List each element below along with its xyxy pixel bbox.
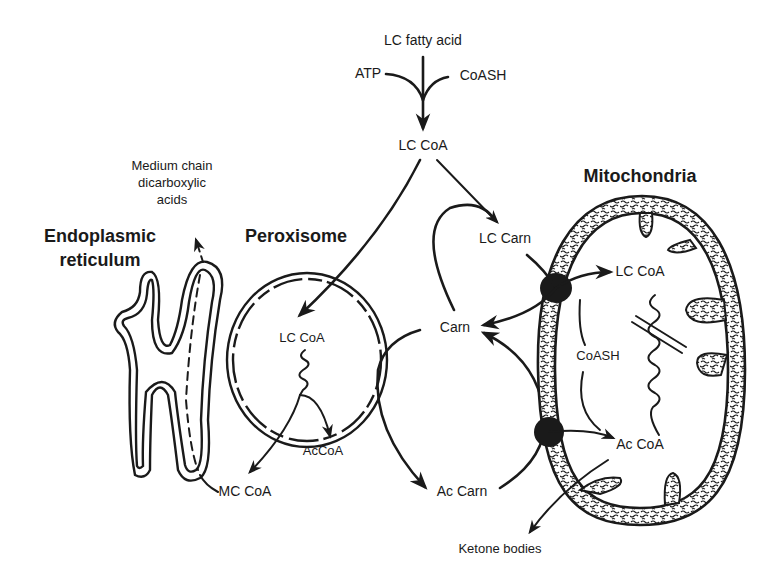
lc-coa-peroxisome-label: LC CoA (279, 330, 325, 345)
lc-coa-cytosol-label: LC CoA (398, 137, 448, 153)
coash-mito-line (580, 300, 585, 345)
ketone-bodies-label: Ketone bodies (458, 541, 542, 556)
mito-block-marks (632, 316, 686, 353)
er-title-line1: Endoplasmic (44, 226, 156, 246)
mitochondria-shape (534, 196, 745, 525)
peroxisome-shape (227, 273, 387, 447)
coash-curve (581, 372, 600, 430)
er-title-line2: reticulum (59, 250, 140, 270)
mcda-label-line1: Medium chain (132, 158, 213, 173)
mitochondria-title: Mitochondria (584, 166, 698, 186)
coash-mito-label: CoASH (576, 348, 619, 363)
er-shape (115, 262, 222, 481)
mito-beta-oxidation-spiral (648, 295, 659, 435)
coash-top-label: CoASH (460, 67, 507, 83)
carn-to-ac-carn-arrow (377, 330, 425, 487)
mcda-label-line3: acids (157, 192, 188, 207)
peroxisome-title: Peroxisome (245, 226, 347, 246)
lc-carn-label: LC Carn (479, 230, 531, 246)
peroxisome-to-accoa-arrow (300, 395, 330, 436)
mcda-label-line2: dicarboxylic (138, 175, 206, 190)
mc-coa-label: MC CoA (219, 483, 273, 499)
coash-input-curve (423, 77, 448, 100)
lc-coa-mito-label: LC CoA (615, 263, 665, 279)
ac-carn-label: Ac Carn (437, 483, 488, 499)
peroxisome-spiral (299, 350, 308, 395)
atp-label: ATP (355, 65, 381, 81)
ac-coa-mito-label: Ac CoA (616, 436, 664, 452)
fatty-acid-oxidation-diagram: LC fatty acid ATP CoASH LC CoA LC Carn C… (0, 0, 764, 585)
ac-carn-to-carn-arrow (484, 333, 545, 488)
carn-label: Carn (440, 319, 470, 335)
lc-fatty-acid-label: LC fatty acid (384, 32, 462, 48)
atp-input-curve (386, 74, 423, 100)
accoa-peroxisome-label: AcCoA (303, 443, 344, 458)
carn-recycle-curve (433, 205, 495, 310)
er-to-mcda-arrow (196, 240, 203, 262)
mc-coa-to-er-line (200, 475, 218, 492)
